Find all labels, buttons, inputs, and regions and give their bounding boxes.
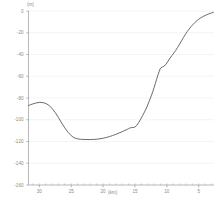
x-axis-tick-label: 20 [96,189,110,194]
x-axis-tick-label: 15 [128,189,142,194]
x-axis-tick-label: 5 [192,189,206,194]
y-axis-tick-label: -40 [6,52,24,57]
y-axis-tick-label: -20 [6,30,24,35]
x-axis-tick-label: 30 [32,189,46,194]
x-axis-tick-label: 25 [64,189,78,194]
y-axis-tick-label: -160 [6,183,24,188]
x-axis-tick-label: 10 [160,189,174,194]
y-axis-tick-label: -120 [6,139,24,144]
y-axis-tick-label: -60 [6,74,24,79]
x-axis-ticks [39,185,198,187]
y-axis-tick-label: -80 [6,96,24,101]
y-axis-tick-label: -140 [6,161,24,166]
plot-canvas [0,0,221,200]
y-axis-tick-label: 0 [6,9,24,14]
y-axis-tick-label: -100 [6,117,24,122]
elevation-profile-chart: (m) (km) 0-20-40-60-80-100-120-140-160 3… [0,0,221,200]
